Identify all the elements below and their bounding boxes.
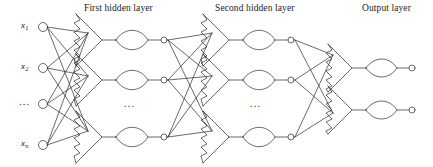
hidden2-summation-unit-3	[201, 111, 243, 163]
network-edges-and-units	[39, 14, 416, 163]
output-summation-unit-2	[326, 86, 366, 134]
network-graph	[0, 0, 433, 167]
output-summation-unit-1	[326, 44, 366, 92]
hidden2-node-2	[288, 77, 294, 83]
output-node-1	[409, 65, 415, 71]
hidden2-activation-unit-1	[243, 30, 288, 50]
output-activation-unit-1	[366, 59, 409, 77]
input-node-x1	[39, 23, 48, 32]
hidden1-activation-unit-2	[116, 70, 161, 90]
hidden1-node-3	[161, 134, 167, 140]
hidden1-node-1	[161, 37, 167, 43]
hidden2-node-3	[288, 134, 294, 140]
output-activation-unit-2	[366, 101, 409, 119]
hidden1-activation-unit-1	[116, 30, 161, 50]
hidden2-node-1	[288, 37, 294, 43]
neural-network-figure: First hidden layer Second hidden layer O…	[0, 0, 433, 167]
hidden2-activation-unit-3	[243, 127, 288, 147]
hidden1-activation-unit-3	[116, 127, 161, 147]
input-node-xn	[39, 141, 48, 150]
output-node-2	[409, 107, 415, 113]
input-node-x2	[39, 64, 48, 73]
hidden2-activation-unit-2	[243, 70, 288, 90]
hidden1-node-2	[161, 77, 167, 83]
edges-input-to-hidden1	[47, 27, 88, 145]
input-node-dots	[39, 100, 48, 109]
